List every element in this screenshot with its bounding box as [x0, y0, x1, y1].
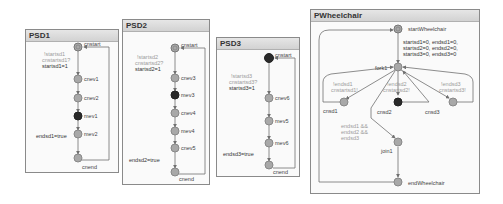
state-node	[394, 63, 402, 71]
diagram-label: mev4	[181, 128, 194, 134]
diagram-label: cnend	[179, 176, 194, 182]
psd1-diagram: cnstart cnev1 cnev2 mev1 mev2 cnend !sta…	[26, 30, 120, 174]
diagram-label: cnstart	[275, 52, 292, 58]
diagram-label: fork1	[375, 65, 387, 71]
diagram-label: cnend	[82, 164, 97, 170]
diagram-label: cnstart	[181, 42, 198, 48]
diagram-label: cnstartsd2!	[383, 87, 410, 93]
diagram-label: startsd3=0, endsd3=0	[403, 51, 456, 57]
state-node	[74, 112, 82, 120]
panel-psd2: PSD2 cnstart cnev3 mev3 cnev4 mev4 cnev5…	[122, 19, 210, 185]
diagram-label: cnsd2	[377, 109, 392, 115]
state-node	[74, 154, 82, 162]
diagram-label: cnstart	[84, 41, 101, 47]
state-node	[171, 127, 179, 135]
diagram-label: cnev4	[181, 110, 196, 116]
panel-psd1: PSD1 cnstart cnev1 cnev2 mev1 mev2 cnend…	[25, 29, 119, 173]
state-node	[265, 94, 273, 102]
state-node	[171, 144, 179, 152]
diagram-label: startsd2=1	[135, 66, 161, 72]
panel-psd3: PSD3 cnstart cnev6 mev5 mev6 cnend !star…	[216, 37, 300, 177]
diagram-label: cnev3	[181, 75, 196, 81]
transition-edge	[403, 67, 473, 102]
state-node	[171, 168, 179, 176]
diagram-label: endsd2=true	[129, 157, 160, 163]
diagram-label: cnsd3	[425, 109, 440, 115]
diagram-label: mev2	[84, 131, 97, 137]
diagram-label: cnev6	[275, 95, 290, 101]
state-node	[340, 98, 348, 106]
state-node	[171, 91, 179, 99]
diagram-label: cnsd1	[323, 108, 338, 114]
diagram-label: cnstartsd1!	[331, 87, 358, 93]
diagram-label: mev3	[181, 92, 194, 98]
state-node	[265, 117, 273, 125]
diagram-label: endWheelchair	[408, 180, 445, 186]
diagram-label: endsd1=true	[36, 133, 67, 139]
transition-edge	[319, 30, 394, 182]
state-node	[74, 75, 82, 83]
state-node	[171, 109, 179, 117]
diagram-label: cnstartsd3!	[439, 87, 466, 93]
transition-edge	[273, 58, 295, 168]
state-node	[265, 139, 273, 147]
state-node	[394, 98, 402, 106]
panel-pwheelchair: PWheelchair startWheelchair startsd1=0, …	[310, 9, 480, 194]
diagram-label: cnev5	[181, 145, 196, 151]
state-node	[394, 138, 402, 146]
diagram-label: cnev1	[84, 76, 99, 82]
psd2-diagram: cnstart cnev3 mev3 cnev4 mev4 cnev5 cnen…	[123, 20, 211, 186]
diagram-label: endsd3=true	[223, 151, 254, 157]
diagram-label: mev1	[84, 113, 97, 119]
diagram-label: cnend	[273, 169, 288, 175]
transition-edge	[82, 47, 109, 160]
diagram-label: startsd3=1	[229, 85, 255, 91]
psd3-diagram: cnstart cnev6 mev5 mev6 cnend !startsd3 …	[217, 38, 301, 178]
state-node	[171, 74, 179, 82]
state-node	[265, 54, 274, 63]
diagram-label: endsd3	[341, 135, 359, 141]
state-node	[171, 44, 179, 52]
diagram-label: mev5	[275, 118, 288, 124]
state-node	[265, 161, 273, 169]
state-node	[74, 43, 82, 51]
state-node	[394, 178, 402, 186]
state-node	[449, 98, 457, 106]
state-node	[74, 94, 82, 102]
diagram-label: mev6	[275, 140, 288, 146]
diagram-label: cnev2	[84, 95, 99, 101]
diagram-label: startWheelchair	[408, 26, 446, 32]
state-node	[394, 25, 402, 33]
diagram-label: startsd1=1	[42, 63, 68, 69]
state-node	[74, 130, 82, 138]
pwheelchair-diagram: startWheelchair startsd1=0, endsd1=0, st…	[311, 10, 481, 195]
diagram-label: join1	[380, 148, 393, 154]
